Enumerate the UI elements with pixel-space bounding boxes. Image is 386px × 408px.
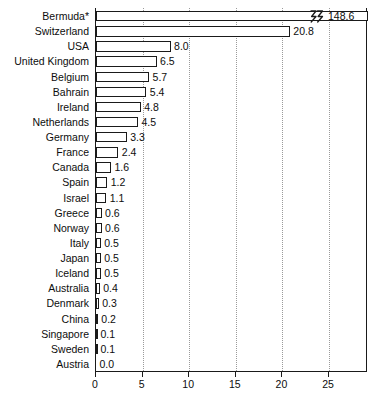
bar (96, 329, 98, 339)
category-label: Ireland (0, 100, 89, 115)
bar-chart: Bermuda*SwitzerlandUSAUnited KingdomBelg… (0, 0, 386, 408)
bar-value-label: 3.3 (130, 130, 145, 144)
bar (96, 132, 127, 142)
bar-value-label: 0.0 (100, 357, 115, 371)
bar (96, 253, 101, 263)
bar (96, 147, 118, 157)
bar-row: 2.4 (96, 145, 366, 160)
bar-value-label: 6.5 (160, 54, 175, 68)
axis-tick-label: 10 (173, 378, 203, 391)
category-label: Netherlands (0, 115, 89, 130)
category-label: Belgium (0, 70, 89, 85)
category-label: Spain (0, 175, 89, 190)
category-label: France (0, 145, 89, 160)
category-label: Australia (0, 281, 89, 296)
bar-value-label: 4.8 (144, 100, 159, 114)
category-label: Norway (0, 221, 89, 236)
category-label: Japan (0, 251, 89, 266)
bar-row: 1.1 (96, 191, 366, 206)
bar (96, 298, 99, 308)
category-label: USA (0, 39, 89, 54)
bar-row: 0.2 (96, 312, 366, 327)
axis-tick-label: 15 (220, 378, 250, 391)
category-label: Iceland (0, 266, 89, 281)
bar-row: 0.6 (96, 206, 366, 221)
bar-row: 4.5 (96, 115, 366, 130)
axis-tick-20 (281, 372, 282, 377)
bar-value-label: 2.4 (122, 145, 137, 159)
bar (96, 314, 98, 324)
bar-value-label: 5.4 (150, 85, 165, 99)
bar-value-label: 1.6 (114, 160, 129, 174)
bar (96, 238, 101, 248)
bar-row: 0.6 (96, 221, 366, 236)
bar-value-label: 0.5 (104, 236, 119, 250)
bar-row: 3.3 (96, 130, 366, 145)
plot-area: 148.620.88.06.55.75.44.84.53.32.41.61.21… (95, 8, 367, 372)
bar-value-label: 0.2 (101, 312, 116, 326)
bar (96, 223, 102, 233)
bar-row: 8.0 (96, 39, 366, 54)
category-label: Germany (0, 130, 89, 145)
bar-value-label: 0.5 (104, 266, 119, 280)
bar-rows: 148.620.88.06.55.75.44.84.53.32.41.61.21… (96, 8, 366, 371)
bar (96, 56, 157, 66)
bar-value-label: 0.1 (100, 342, 115, 356)
category-label: Canada (0, 160, 89, 175)
bar (96, 162, 111, 172)
bar (96, 193, 106, 203)
bar-value-label: 8.0 (174, 39, 189, 53)
axis-break-icon (309, 10, 325, 23)
bar-row: 0.1 (96, 327, 366, 342)
category-label: China (0, 312, 89, 327)
bar-value-label: 0.3 (102, 296, 117, 310)
axis-tick-25 (328, 372, 329, 377)
bar (96, 268, 101, 278)
bar-value-label: 20.8 (293, 24, 313, 38)
bar-row: 0.5 (96, 236, 366, 251)
bar-value-label: 1.1 (110, 191, 125, 205)
category-label: Israel (0, 191, 89, 206)
category-label: Switzerland (0, 24, 89, 39)
category-label: Italy (0, 236, 89, 251)
axis-tick-0 (95, 372, 96, 377)
bar-row: 0.5 (96, 266, 366, 281)
bar-row: 20.8 (96, 24, 366, 39)
bar (96, 26, 290, 36)
category-label: Singapore (0, 327, 89, 342)
axis-tick-label: 0 (80, 378, 110, 391)
bar-row: 0.1 (96, 342, 366, 357)
bar-row: 5.4 (96, 85, 366, 100)
axis-tick-5 (142, 372, 143, 377)
category-label: Denmark (0, 296, 89, 311)
bar-value-label: 1.2 (111, 175, 126, 189)
bar-value-label: 148.6 (328, 9, 354, 23)
bar-value-label: 0.6 (105, 221, 120, 235)
axis-tick-label: 20 (266, 378, 296, 391)
category-label: Austria (0, 357, 89, 372)
bar (96, 359, 97, 369)
axis-tick-10 (188, 372, 189, 377)
bar-row: 5.7 (96, 70, 366, 85)
axis-tick-label: 5 (127, 378, 157, 391)
bar-value-label: 0.4 (103, 281, 118, 295)
bar-value-label: 5.7 (153, 70, 168, 84)
bar-value-label: 0.5 (104, 251, 119, 265)
axis-tick-15 (235, 372, 236, 377)
bar-value-label: 0.1 (100, 327, 115, 341)
bar-row: 1.2 (96, 175, 366, 190)
bar-row: 148.6 (96, 9, 366, 24)
category-label: Bermuda* (0, 9, 89, 24)
bar-row: 1.6 (96, 160, 366, 175)
bar-value-label: 0.6 (105, 206, 120, 220)
bar-row: 0.5 (96, 251, 366, 266)
bar-value-label: 4.5 (141, 115, 156, 129)
bar-row: 0.3 (96, 296, 366, 311)
bar (96, 283, 100, 293)
axis-tick-label: 25 (313, 378, 343, 391)
bar-row: 6.5 (96, 54, 366, 69)
category-label: United Kingdom (0, 54, 89, 69)
bar-row: 0.4 (96, 281, 366, 296)
bar (96, 102, 141, 112)
bar (96, 344, 98, 354)
